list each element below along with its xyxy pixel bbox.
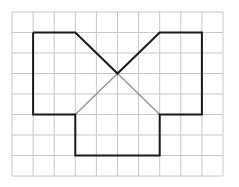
grid-diagram	[0, 0, 239, 187]
square-grid	[12, 12, 223, 176]
